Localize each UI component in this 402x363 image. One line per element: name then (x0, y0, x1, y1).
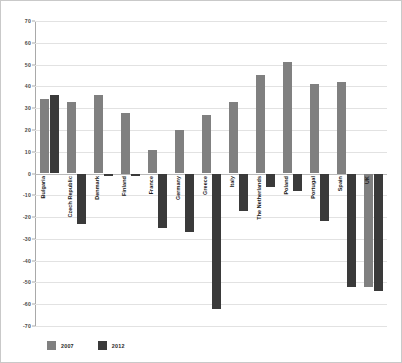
gridline--70 (35, 326, 387, 327)
legend-swatch-2012 (98, 341, 107, 350)
y-tick-label: 20 (25, 127, 31, 133)
bar-2007 (148, 150, 157, 174)
bar-group: France (144, 21, 171, 326)
bar-2007 (256, 75, 265, 173)
legend-item[interactable]: 2007 (47, 341, 74, 350)
category-label: France (149, 176, 154, 194)
y-tick-label: -60 (23, 301, 31, 307)
bar-group: Spain (333, 21, 360, 326)
bar-group: Italy (225, 21, 252, 326)
chart-legend: 20072012 (47, 341, 125, 350)
bar-2007 (175, 130, 184, 174)
y-tickmark--30 (32, 238, 35, 239)
bar-2012 (185, 174, 194, 233)
y-tickmark--10 (32, 195, 35, 196)
bar-2007 (283, 62, 292, 173)
bar-group: Poland (279, 21, 306, 326)
bar-2012 (320, 174, 329, 222)
y-tick-label: 30 (25, 105, 31, 111)
bar-group: Portugal (306, 21, 333, 326)
y-tickmark--50 (32, 282, 35, 283)
bar-2007 (94, 95, 103, 173)
y-tick-label: -70 (23, 323, 31, 329)
y-tick-label: -30 (23, 236, 31, 242)
category-label: Spain (338, 176, 343, 191)
y-tickmark-70 (32, 21, 35, 22)
y-tickmark-30 (32, 108, 35, 109)
bar-2012 (104, 174, 113, 176)
bar-group: Bulgaria (36, 21, 63, 326)
bar-group: Greece (198, 21, 225, 326)
y-tick-label: 50 (25, 62, 31, 68)
category-label: The Netherlands (257, 176, 262, 220)
y-tickmark-10 (32, 151, 35, 152)
y-tickmark--70 (32, 326, 35, 327)
bar-group: Finland (117, 21, 144, 326)
bar-2007 (337, 82, 346, 174)
bar-group: The Netherlands (252, 21, 279, 326)
bar-2012 (212, 174, 221, 309)
bar-group: Denmark (90, 21, 117, 326)
legend-label: 2007 (61, 343, 74, 349)
y-tickmark-50 (32, 64, 35, 65)
y-tickmark--20 (32, 217, 35, 218)
legend-swatch-2007 (47, 341, 56, 350)
category-label: Greece (203, 176, 208, 195)
bar-2012 (131, 174, 140, 176)
category-label: Portugal (311, 176, 316, 199)
y-tick-label: -20 (23, 214, 31, 220)
y-tickmark-40 (32, 86, 35, 87)
bar-2007 (364, 174, 373, 287)
y-tick-label: -40 (23, 258, 31, 264)
category-label: Italy (230, 176, 235, 187)
y-tick-label: 0 (28, 171, 31, 177)
y-tickmark-0 (32, 173, 35, 174)
bar-2012 (266, 174, 275, 187)
y-tick-label: -10 (23, 192, 31, 198)
category-label: Poland (284, 176, 289, 195)
bar-2007 (40, 99, 49, 173)
bar-2012 (374, 174, 383, 292)
category-label: Finland (122, 176, 127, 196)
category-label: Czech Republic (68, 176, 73, 218)
bar-2007 (67, 102, 76, 174)
bar-group: Germany (171, 21, 198, 326)
bar-2007 (229, 102, 238, 174)
y-tick-label: 10 (25, 149, 31, 155)
bar-2012 (239, 174, 248, 211)
bar-2012 (50, 95, 59, 173)
plot-area: 706050403020100-10-20-30-40-50-60-70 Bul… (35, 21, 387, 326)
bar-2012 (293, 174, 302, 191)
bar-2007 (310, 84, 319, 173)
y-tickmark-60 (32, 42, 35, 43)
y-tick-label: -50 (23, 279, 31, 285)
category-label: UK (365, 176, 370, 184)
bar-2012 (158, 174, 167, 228)
bar-2012 (347, 174, 356, 287)
legend-label: 2012 (112, 343, 125, 349)
category-label: Denmark (95, 176, 100, 200)
y-tick-label: 40 (25, 83, 31, 89)
y-tickmark-20 (32, 129, 35, 130)
legend-item[interactable]: 2012 (98, 341, 125, 350)
category-label: Germany (176, 176, 181, 200)
y-tick-label: 70 (25, 18, 31, 24)
y-tickmark--40 (32, 260, 35, 261)
bar-group: UK (360, 21, 387, 326)
y-tickmark--60 (32, 304, 35, 305)
bar-chart-figure: 706050403020100-10-20-30-40-50-60-70 Bul… (0, 0, 402, 363)
y-tick-label: 60 (25, 40, 31, 46)
bar-group: Czech Republic (63, 21, 90, 326)
bar-2007 (202, 115, 211, 174)
category-label: Bulgaria (41, 176, 46, 198)
bar-groups: BulgariaCzech RepublicDenmarkFinlandFran… (36, 21, 387, 326)
bar-2012 (77, 174, 86, 224)
bar-2007 (121, 113, 130, 174)
